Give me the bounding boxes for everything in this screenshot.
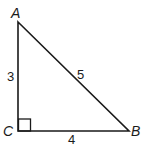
vertex-b-label: B: [131, 123, 140, 139]
right-angle-marker: [19, 119, 31, 131]
side-cb-length: 4: [68, 132, 75, 146]
vertex-c-label: C: [3, 123, 14, 139]
side-ac-length: 3: [7, 69, 14, 84]
right-triangle-diagram: A B C 3 5 4: [0, 0, 147, 146]
side-ab-length: 5: [77, 67, 84, 82]
triangle-abc: [18, 22, 129, 131]
vertex-a-label: A: [10, 5, 20, 21]
